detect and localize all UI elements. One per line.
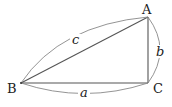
side-b-label: b	[156, 44, 164, 59]
vertex-a-label: A	[141, 2, 152, 17]
vertex-b-dot	[20, 82, 22, 84]
side-a-label: a	[80, 85, 88, 100]
side-c-label: c	[72, 32, 80, 47]
side-c-line	[21, 17, 148, 83]
triangle-diagram: A B C c b a	[0, 0, 172, 107]
vertex-b-label: B	[7, 81, 17, 96]
vertex-c-label: C	[153, 81, 163, 96]
